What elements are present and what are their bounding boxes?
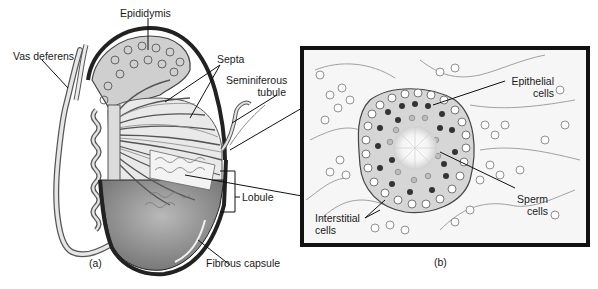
testis-anatomy-figure: Epididymis Vas deferens Septa Seminifero…	[0, 0, 598, 289]
label-epithelial-cells-line1: Epithelial	[508, 76, 554, 87]
label-lobule: Lobule	[242, 192, 274, 203]
label-septa: Septa	[217, 54, 244, 65]
label-seminiferous-tubule-line2: tubule	[226, 87, 286, 98]
label-epithelial-cells-line2: cells	[508, 88, 554, 99]
label-sperm-cells-line2: cells	[510, 206, 548, 217]
label-vas-deferens: Vas deferens	[13, 51, 74, 62]
label-epididymis: Epididymis	[120, 8, 171, 19]
illustration	[0, 0, 598, 289]
label-interstitial-cells-line1: Interstitial	[315, 213, 360, 224]
caption-panel-b: (b)	[434, 257, 447, 268]
label-fibrous-capsule: Fibrous capsule	[206, 258, 280, 269]
label-seminiferous-tubule-line1: Seminiferous	[226, 75, 286, 86]
label-interstitial-cells-line2: cells	[315, 225, 336, 236]
caption-panel-a: (a)	[89, 258, 102, 269]
label-sperm-cells-line1: Sperm	[510, 194, 548, 205]
